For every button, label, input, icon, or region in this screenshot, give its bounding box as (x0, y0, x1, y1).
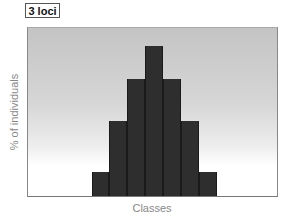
bar-class-6 (181, 121, 199, 196)
x-axis-label: Classes (132, 202, 171, 214)
bar-class-4 (145, 46, 163, 196)
bar-class-7 (199, 172, 217, 196)
chart-title: 3 loci (25, 3, 60, 18)
bar-class-1 (92, 172, 110, 196)
y-axis-label: % of individuals (8, 74, 20, 150)
plot-area (27, 27, 278, 197)
bar-series (28, 28, 277, 196)
bar-class-5 (163, 79, 181, 196)
bar-class-2 (109, 121, 127, 196)
bar-class-3 (127, 79, 145, 196)
